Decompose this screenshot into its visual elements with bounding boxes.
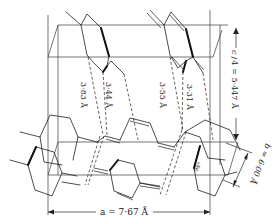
b-axis-label: b = 6·00 Å: [248, 142, 273, 185]
angle-label: 98°: [193, 161, 203, 173]
arrow-b-down-icon: [233, 180, 237, 187]
molecule-lower-layer: [10, 115, 240, 200]
crystal-structure-diagram: 3·83 Å 3·44 Å 3·55 Å 3·31 Å c/4= 5·447 Å…: [0, 0, 276, 224]
c-axis-label: c/4= 5·447 Å: [230, 50, 239, 109]
molecule-upper-right: [147, 10, 204, 73]
a-axis-label: a = 7·67 Å: [100, 206, 149, 217]
molecule-upper-left: [66, 12, 124, 74]
arrow-left-icon: [48, 210, 54, 215]
distance-labels: 3·83 Å 3·44 Å 3·55 Å 3·31 Å: [79, 82, 194, 110]
c-axis-dimension: c/4= 5·447 Å: [230, 28, 242, 140]
b-axis-dimension: b = 6·00 Å: [223, 142, 272, 187]
distance-label-3-31: 3·31 Å: [185, 84, 194, 110]
distance-label-3-44: 3·44 Å: [104, 82, 113, 108]
a-axis-dimension: a = 7·67 Å: [48, 206, 210, 217]
distance-label-3-83: 3·83 Å: [79, 82, 88, 108]
arrow-right-icon: [204, 210, 210, 215]
distance-label-3-55: 3·55 Å: [158, 82, 167, 108]
arrow-b-up-icon: [244, 153, 248, 160]
arrow-up-icon: [233, 28, 239, 34]
